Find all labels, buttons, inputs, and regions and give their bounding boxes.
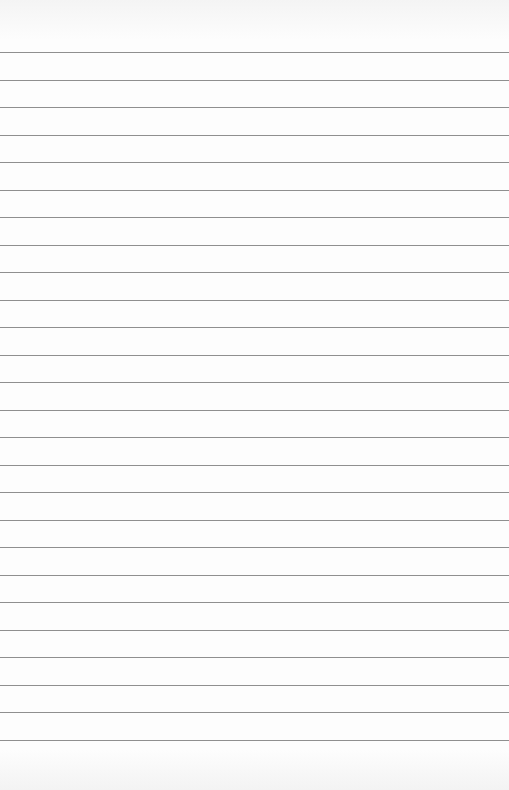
ruled-line bbox=[0, 740, 509, 741]
ruled-line bbox=[0, 300, 509, 301]
ruled-line bbox=[0, 437, 509, 438]
ruled-line bbox=[0, 657, 509, 658]
ruled-line bbox=[0, 520, 509, 521]
ruled-line bbox=[0, 712, 509, 713]
ruled-line bbox=[0, 355, 509, 356]
ruled-line bbox=[0, 575, 509, 576]
ruled-line bbox=[0, 80, 509, 81]
ruled-line bbox=[0, 162, 509, 163]
ruled-line bbox=[0, 217, 509, 218]
ruled-line bbox=[0, 190, 509, 191]
ruled-line bbox=[0, 327, 509, 328]
ruled-line bbox=[0, 630, 509, 631]
ruled-line bbox=[0, 465, 509, 466]
ruled-line bbox=[0, 382, 509, 383]
ruled-line bbox=[0, 272, 509, 273]
ruled-line bbox=[0, 135, 509, 136]
ruled-line bbox=[0, 547, 509, 548]
lined-paper-sheet bbox=[0, 0, 509, 790]
ruled-line bbox=[0, 602, 509, 603]
ruled-line bbox=[0, 492, 509, 493]
ruled-line bbox=[0, 245, 509, 246]
ruled-line bbox=[0, 410, 509, 411]
ruled-line bbox=[0, 107, 509, 108]
ruled-line bbox=[0, 685, 509, 686]
ruled-line bbox=[0, 52, 509, 53]
